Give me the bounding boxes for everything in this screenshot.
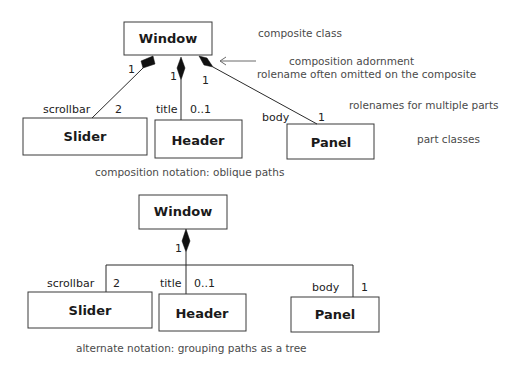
top-window-label: Window [139,31,197,46]
bottom-panel-mult: 1 [361,281,368,294]
top-slider-mult: 2 [115,103,122,116]
bottom-header-rolename: title [160,277,182,290]
top-header-class: Header [155,120,242,158]
uml-composition-diagram: Window Slider Header Panel 1 1 1 [0,0,512,368]
top-window-class: Window [124,22,212,55]
top-header-mult: 0..1 [190,103,211,116]
top-header-diamond-icon [177,57,185,80]
annotation-rolename-omitted: rolename often omitted on the composite [257,68,476,80]
top-header-composite-mult: 1 [170,70,177,83]
top-diagram: Window Slider Header Panel 1 1 1 [23,22,498,178]
bottom-header-label: Header [175,306,229,321]
bottom-composite-mult: 1 [175,242,182,255]
top-panel-composite-mult: 1 [202,74,209,87]
annotation-rolenames-multiple: rolenames for multiple parts [349,99,498,111]
bottom-header-mult: 0..1 [194,277,215,290]
bottom-window-class: Window [139,195,227,229]
top-panel-diamond-icon [199,56,213,67]
annotation-composite-class: composite class [258,27,342,39]
bottom-diagram-caption: alternate notation: grouping paths as a … [76,342,307,354]
annotation-composition-adornment: composition adornment [289,55,414,67]
top-diagram-caption: composition notation: oblique paths [95,166,284,178]
top-slider-label: Slider [64,129,107,144]
top-slider-diamond-icon [141,56,155,68]
bottom-slider-mult: 2 [113,277,120,290]
bottom-slider-rolename: scrollbar [47,277,95,290]
top-header-rolename: title [156,103,178,116]
top-header-label: Header [171,133,225,148]
top-panel-mult: 1 [318,111,325,124]
top-slider-rolename: scrollbar [43,103,91,116]
bottom-slider-label: Slider [69,303,112,318]
bottom-panel-class: Panel [291,297,379,332]
top-panel-class: Panel [287,124,374,159]
bottom-window-label: Window [154,204,212,219]
bottom-diagram: Window 1 Slider Header Panel scrollbar 2… [28,195,379,354]
bottom-panel-rolename: body [312,281,340,294]
bottom-slider-class: Slider [28,292,152,328]
top-slider-class: Slider [23,118,147,155]
annotation-part-classes: part classes [417,133,480,145]
bottom-composition-diamond-icon [182,229,190,252]
top-slider-composite-mult: 1 [128,63,135,76]
bottom-header-class: Header [159,294,246,331]
bottom-panel-label: Panel [315,307,355,322]
top-panel-label: Panel [311,135,351,150]
top-panel-rolename: body [262,111,290,124]
